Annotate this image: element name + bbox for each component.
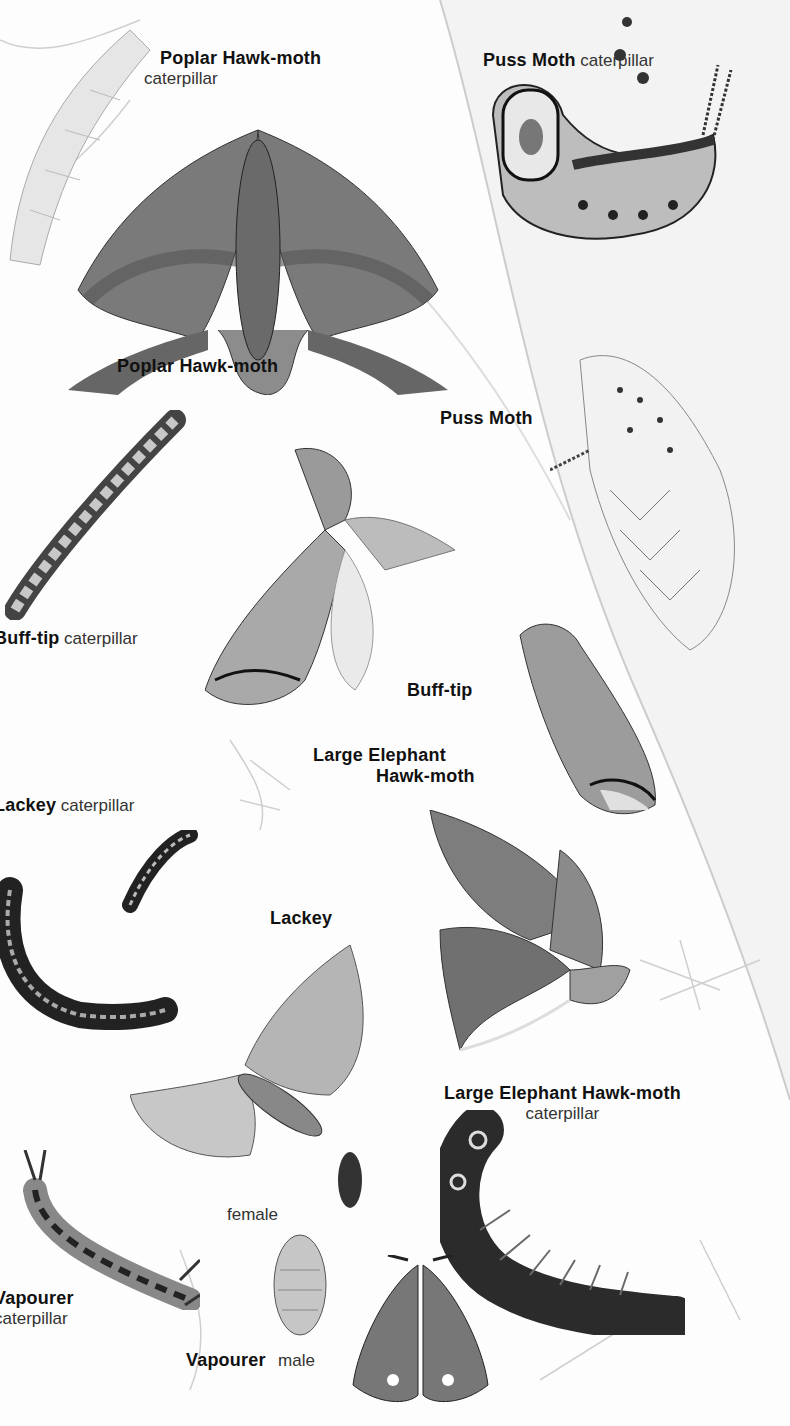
poplar-hawk-moth-illustration	[68, 110, 448, 395]
large-elephant-hawk-moth-illustration	[420, 810, 635, 1065]
label-sub: caterpillar	[444, 1104, 681, 1124]
label-buff-tip: Buff-tip	[407, 680, 473, 701]
label-name: Puss Moth	[483, 50, 576, 70]
label-name-line2: Hawk-moth	[376, 766, 475, 787]
label-sub: caterpillar	[61, 796, 135, 815]
label-sub: caterpillar	[64, 629, 138, 648]
label-sub: caterpillar	[580, 51, 654, 70]
label-sub: male	[278, 1351, 315, 1370]
label-name-line1: Large Elephant	[313, 745, 475, 766]
label-name: Buff-tip	[0, 628, 60, 648]
label-large-elephant-hawk-moth: Large Elephant Hawk-moth	[313, 745, 475, 786]
label-vapourer-male: Vapourer male	[186, 1350, 315, 1371]
buff-tip-moth-resting-illustration	[510, 615, 665, 820]
lackey-moth-illustration	[130, 945, 375, 1170]
puss-moth-illustration	[550, 330, 750, 660]
label-name: Large Elephant Hawk-moth	[444, 1083, 681, 1104]
label-poplar-hawk-moth: Poplar Hawk-moth	[117, 356, 278, 377]
label-vapourer-caterpillar: Vapourer caterpillar	[0, 1288, 74, 1328]
label-lackey: Lackey	[270, 908, 332, 929]
label-large-elephant-hawk-moth-caterpillar: Large Elephant Hawk-moth caterpillar	[444, 1083, 681, 1123]
label-vapourer-female: female	[227, 1205, 278, 1225]
label-buff-tip-caterpillar: Buff-tip caterpillar	[0, 628, 138, 649]
label-sub: female	[227, 1205, 278, 1224]
label-name: Lackey	[0, 795, 56, 815]
label-poplar-hawk-moth-caterpillar: Poplar Hawk-moth caterpillar	[144, 48, 321, 88]
label-name: Puss Moth	[440, 408, 533, 428]
label-name: Buff-tip	[407, 680, 473, 700]
label-sub: caterpillar	[144, 69, 321, 89]
label-puss-moth-caterpillar: Puss Moth caterpillar	[483, 50, 654, 71]
label-name: Vapourer	[0, 1288, 74, 1309]
label-sub: caterpillar	[0, 1309, 74, 1329]
label-name: Poplar Hawk-moth	[160, 48, 321, 68]
label-name: Vapourer	[186, 1350, 266, 1370]
vapourer-male-illustration	[348, 1255, 493, 1415]
label-name: Lackey	[270, 908, 332, 928]
label-lackey-caterpillar: Lackey caterpillar	[0, 795, 134, 816]
label-puss-moth: Puss Moth	[440, 408, 533, 429]
buff-tip-moth-spread-illustration	[205, 440, 465, 715]
buff-tip-caterpillar-illustration	[5, 410, 190, 620]
field-guide-page: Poplar Hawk-moth caterpillar Puss Moth c…	[0, 0, 790, 1426]
label-name: Poplar Hawk-moth	[117, 356, 278, 376]
vapourer-caterpillar-illustration	[10, 1150, 200, 1310]
